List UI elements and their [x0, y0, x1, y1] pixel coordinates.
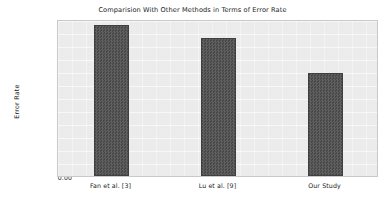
bar	[201, 38, 237, 176]
x-tick-label: Our Study	[308, 182, 341, 189]
chart-title: Comparision With Other Methods in Terms …	[0, 6, 385, 14]
bar-chart-figure: Comparision With Other Methods in Terms …	[0, 0, 385, 203]
bar	[308, 73, 344, 176]
plot-area	[57, 20, 378, 177]
x-tick-label: Fan et al. [3]	[90, 182, 131, 189]
bar	[94, 25, 130, 176]
x-tick-label: Lu et al. [9]	[199, 182, 237, 189]
y-axis-title: Error Rate	[10, 0, 24, 203]
